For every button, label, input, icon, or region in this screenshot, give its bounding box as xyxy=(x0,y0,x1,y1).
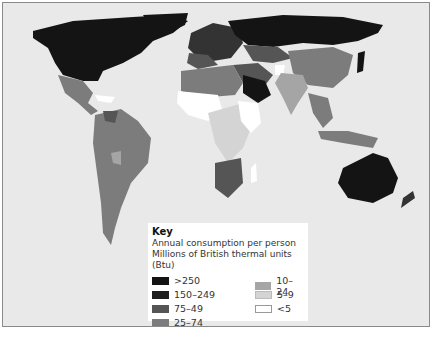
legend-item: 150–249 xyxy=(152,289,215,300)
region-caribbean xyxy=(95,95,115,103)
key-subtitle: Annual consumption per person xyxy=(152,238,304,249)
legend-label: <5 xyxy=(277,303,291,314)
legend-item: 5–9 xyxy=(255,289,294,300)
region-russia xyxy=(228,15,383,47)
legend-label: 25–74 xyxy=(174,317,203,327)
region-new-zealand xyxy=(401,191,415,208)
legend-item: 25–74 xyxy=(152,317,203,327)
region-southeast-asia xyxy=(308,93,333,128)
legend-swatch xyxy=(152,305,169,313)
legend-label: >250 xyxy=(174,275,200,286)
region-south-america xyxy=(93,109,151,245)
legend-label: 5–9 xyxy=(277,289,294,300)
region-madagascar xyxy=(251,163,257,183)
region-central-asia xyxy=(243,45,293,63)
legend-swatch xyxy=(152,319,169,327)
region-japan xyxy=(357,51,365,73)
key-title: Key xyxy=(152,226,304,238)
map-frame: Key Annual consumption per person Millio… xyxy=(2,2,430,327)
legend-item: >250 xyxy=(152,275,200,286)
legend-swatch xyxy=(152,291,169,299)
region-india xyxy=(275,73,308,115)
legend-swatch xyxy=(255,305,272,313)
legend-swatch xyxy=(255,291,272,299)
legend: >250 150–249 75–49 25–74 10–24 5–9 xyxy=(152,273,304,327)
region-southern-africa xyxy=(215,158,243,198)
region-australia xyxy=(338,153,398,203)
legend-item: 75–49 xyxy=(152,303,203,314)
legend-label: 75–49 xyxy=(174,303,203,314)
region-indonesia xyxy=(318,131,378,148)
legend-swatch xyxy=(152,277,169,285)
legend-label: 150–249 xyxy=(174,289,215,300)
key-units: Millions of British thermal units (Btu) xyxy=(152,249,304,271)
map-key: Key Annual consumption per person Millio… xyxy=(148,223,308,321)
legend-item: <5 xyxy=(255,303,291,314)
